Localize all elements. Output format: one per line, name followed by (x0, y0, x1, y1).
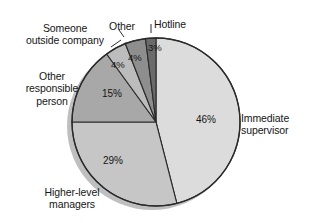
label-higher-level-managers-line2: managers (49, 198, 95, 210)
label-other-responsible-person: Other responsible person (6, 70, 98, 107)
value-label-hotline: 3% (148, 42, 162, 53)
label-someone-outside-company-line2: outside company (26, 34, 104, 46)
label-someone-outside-company-line1: Someone (43, 22, 87, 34)
label-higher-level-managers-line1: Higher-level (45, 186, 100, 198)
label-other: Other (101, 20, 143, 32)
value-label-immediate-supervisor: 46% (196, 114, 216, 126)
label-other-responsible-person-line2: responsible (26, 82, 79, 94)
label-higher-level-managers: Higher-level managers (23, 186, 121, 211)
label-immediate-supervisor: Immediate supervisor (241, 112, 317, 137)
value-label-other-responsible-person: 15% (102, 88, 122, 100)
value-label-higher-level-managers: 29% (103, 155, 123, 167)
label-immediate-supervisor-line1: Immediate (241, 112, 289, 124)
value-label-someone-outside-company: 4% (111, 59, 125, 70)
label-immediate-supervisor-line2: supervisor (241, 124, 288, 136)
label-hotline: Hotline (145, 18, 195, 30)
pie-chart-figure: Someone outside company Other Hotline Ot… (0, 0, 318, 223)
label-other-responsible-person-line1: Other (39, 70, 65, 82)
value-label-other: 4% (128, 52, 142, 63)
label-other-text: Other (109, 20, 135, 32)
label-other-responsible-person-line3: person (36, 95, 68, 107)
label-hotline-text: Hotline (154, 18, 186, 30)
